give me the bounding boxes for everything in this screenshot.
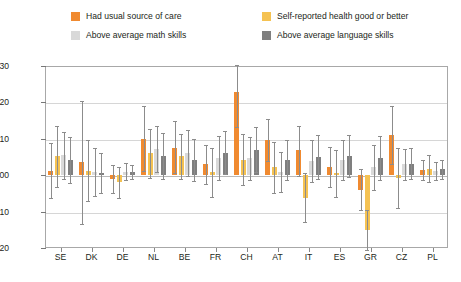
x-tick-label: PL <box>427 252 438 262</box>
x-tick-mark <box>278 248 279 252</box>
x-tick-mark <box>340 248 341 252</box>
x-tick-label: NL <box>148 252 159 262</box>
x-tick-label: CZ <box>396 252 407 262</box>
x-tick-label: CH <box>240 252 252 262</box>
x-tick-label: FR <box>210 252 221 262</box>
x-tick-label: SE <box>55 252 66 262</box>
y-tick-label: 0.20 <box>0 97 9 107</box>
y-tick-mark <box>41 139 46 140</box>
gridline <box>46 140 447 141</box>
y-tick-label: -0.10 <box>0 207 9 217</box>
x-tick-label: DK <box>86 252 98 262</box>
x-tick-label: GR <box>364 252 377 262</box>
y-tick-label: 0.30 <box>0 61 9 71</box>
legend-item-language: Above average language skills <box>262 30 394 40</box>
y-tick-mark <box>41 66 46 67</box>
y-tick-mark <box>41 175 46 176</box>
x-tick-mark <box>123 248 124 252</box>
x-tick-mark <box>309 248 310 252</box>
x-tick-mark <box>216 248 217 252</box>
legend-label-health: Self-reported health good or better <box>277 11 408 21</box>
legend-swatch-health <box>262 12 271 21</box>
plot-area <box>45 66 448 248</box>
legend-swatch-care <box>71 12 80 21</box>
legend-label-math: Above average math skills <box>86 30 186 40</box>
x-tick-mark <box>433 248 434 252</box>
x-tick-mark <box>247 248 248 252</box>
gridline <box>46 103 447 104</box>
legend-label-care: Had usual source of care <box>86 11 182 21</box>
y-tick-mark <box>41 212 46 213</box>
x-tick-label: AT <box>272 252 282 262</box>
x-tick-mark <box>185 248 186 252</box>
y-tick-label: 0.00 <box>0 170 9 180</box>
legend-item-math: Above average math skills <box>71 30 186 40</box>
x-tick-mark <box>154 248 155 252</box>
chart-legend: Had usual source of care Self-reported h… <box>0 8 461 54</box>
legend-item-health: Self-reported health good or better <box>262 11 408 21</box>
legend-swatch-language <box>262 31 271 40</box>
legend-swatch-math <box>71 31 80 40</box>
gridline <box>46 213 447 214</box>
x-tick-label: DE <box>117 252 129 262</box>
y-tick-mark <box>41 248 46 249</box>
error-bar-cap-lower <box>365 250 369 251</box>
x-tick-mark <box>92 248 93 252</box>
x-tick-label: IT <box>305 252 313 262</box>
x-tick-mark <box>61 248 62 252</box>
x-tick-mark <box>371 248 372 252</box>
x-tick-label: BE <box>179 252 190 262</box>
y-tick-label: 0.10 <box>0 134 9 144</box>
y-tick-mark <box>41 102 46 103</box>
legend-label-language: Above average language skills <box>277 30 394 40</box>
gridline <box>46 176 447 177</box>
y-tick-label: -0.20 <box>0 243 9 253</box>
x-tick-mark <box>402 248 403 252</box>
legend-item-care: Had usual source of care <box>71 11 182 21</box>
x-tick-label: ES <box>334 252 345 262</box>
